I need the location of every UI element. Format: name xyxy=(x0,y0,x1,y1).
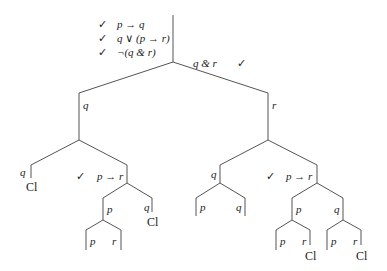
premise-3: ¬(q & r) xyxy=(117,46,156,58)
node-p: p xyxy=(331,235,337,247)
node-r: r xyxy=(353,235,357,247)
closed-marker: Cl xyxy=(356,250,367,262)
node-p-implies-r: p → r xyxy=(286,170,312,182)
node-p-implies-r: p → r xyxy=(97,170,123,182)
node-q: q xyxy=(20,166,26,178)
node-p: p xyxy=(90,235,96,247)
node-q: q xyxy=(211,168,217,180)
check-icon: ✓ xyxy=(98,32,107,44)
check-icon: ✓ xyxy=(98,18,107,30)
node-q: q xyxy=(83,99,89,111)
node-p: p xyxy=(296,203,302,215)
node-q: q xyxy=(236,201,242,213)
check-icon: ✓ xyxy=(237,57,246,69)
node-p: p xyxy=(200,201,206,213)
closed-marker: Cl xyxy=(26,181,37,193)
node-q: q xyxy=(144,201,150,213)
node-p: p xyxy=(280,235,286,247)
check-icon: ✓ xyxy=(266,170,275,182)
premise-2: q ∨ (p → r) xyxy=(117,32,170,44)
premise-1: p → q xyxy=(117,18,145,30)
node-r: r xyxy=(302,235,306,247)
node-r: r xyxy=(112,235,116,247)
node-q: q xyxy=(334,203,340,215)
node-r: r xyxy=(272,99,276,111)
tree-lines xyxy=(0,0,387,271)
check-icon: ✓ xyxy=(98,46,107,58)
closed-marker: Cl xyxy=(147,216,158,228)
negated-conclusion: q & r xyxy=(193,57,217,69)
node-p: p xyxy=(107,203,113,215)
check-icon: ✓ xyxy=(76,170,85,182)
closed-marker: Cl xyxy=(305,250,316,262)
